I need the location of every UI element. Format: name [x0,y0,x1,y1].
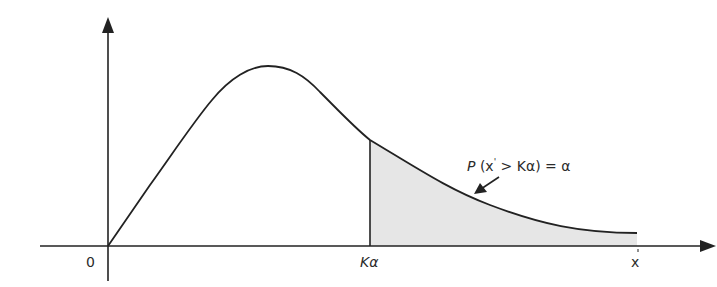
shaded-tail-area [370,140,637,246]
x-axis-arrow-icon [700,240,716,252]
annotation-arrow-icon [474,183,487,194]
annotation-rest: > Kα) = α [496,158,570,174]
annotation-arrow-shaft [481,177,499,189]
origin-label: 0 [86,254,95,270]
annotation-open: (x [475,158,493,174]
threshold-label: Kα [360,254,378,270]
y-axis-arrow-icon [102,17,114,33]
annotation-label: P (x' > Kα) = α [467,157,571,174]
distribution-diagram [0,0,717,287]
x-axis-label: x [631,254,639,270]
